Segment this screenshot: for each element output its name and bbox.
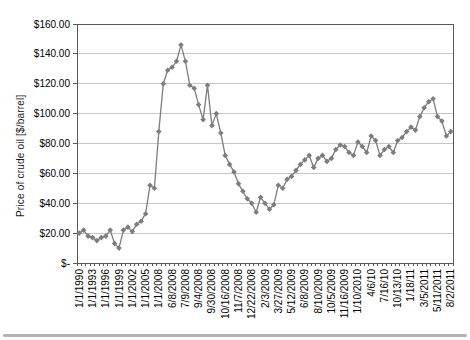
y-tick-label: $40.00 bbox=[39, 198, 70, 209]
x-tick-label: 11/16/2009 bbox=[339, 269, 350, 319]
y-tick-label: $140.00 bbox=[34, 48, 71, 59]
x-tick-label: 2/3/2009 bbox=[260, 269, 271, 308]
x-tick-label: 1/1/1999 bbox=[114, 269, 125, 308]
x-tick-label: 1/1/1996 bbox=[100, 269, 111, 308]
x-tick-label: 9/30/2008 bbox=[206, 269, 217, 314]
data-point-markers bbox=[76, 42, 453, 251]
x-tick-label: 8/2/2011 bbox=[445, 269, 456, 308]
y-tick-label: $100.00 bbox=[34, 108, 71, 119]
x-tick-label: 3/27/2009 bbox=[273, 269, 284, 314]
y-tick-label: $120.00 bbox=[34, 78, 71, 89]
x-tick-label: 10/5/2009 bbox=[326, 269, 337, 314]
x-tick-label: 10/13/10 bbox=[392, 269, 403, 308]
x-tick-label: 7/16/10 bbox=[379, 269, 390, 303]
x-tick-label: 1/10/2010 bbox=[352, 269, 363, 314]
y-tick-label: $- bbox=[61, 258, 70, 269]
plot-area: $-$20.00$40.00$60.00$80.00$100.00$120.00… bbox=[0, 0, 470, 340]
x-tick-label: 5/12/2009 bbox=[286, 269, 297, 314]
x-tick-label: 11/7/2008 bbox=[233, 269, 244, 313]
y-tick-label: $60.00 bbox=[39, 168, 70, 179]
y-tick-label: $160.00 bbox=[34, 19, 71, 30]
x-tick-label: 6/8/2008 bbox=[167, 269, 178, 308]
x-tick-label: 7/9/2008 bbox=[180, 269, 191, 308]
x-tick-label: 3/5/2011 bbox=[419, 269, 430, 308]
y-tick-label: $20.00 bbox=[39, 228, 70, 239]
x-tick-label: 1/1/2005 bbox=[140, 269, 151, 308]
bottom-divider-bar bbox=[3, 334, 467, 337]
x-tick-label: 6/8/2009 bbox=[299, 269, 310, 308]
x-tick-label: 1/1/1993 bbox=[87, 269, 98, 308]
x-tick-label: 4/6/10 bbox=[366, 269, 377, 297]
y-tick-label: $80.00 bbox=[39, 138, 70, 149]
x-tick-label: 10/16/2008 bbox=[220, 269, 231, 319]
x-tick-label: 9/4/2008 bbox=[193, 269, 204, 308]
x-tick-label: 1/1/2008 bbox=[153, 269, 164, 308]
x-tick-label: 1/1/1990 bbox=[74, 269, 85, 308]
x-tick-label: 1/1/2002 bbox=[127, 269, 138, 308]
x-tick-label: 12/22/2008 bbox=[246, 269, 257, 319]
oil-price-chart: Price of crude oil [$/barrel] $-$20.00$4… bbox=[0, 0, 470, 340]
x-tick-label: 5/11/2011 bbox=[432, 269, 443, 312]
price-series-line bbox=[79, 45, 451, 248]
x-tick-label: 1/18/11 bbox=[405, 269, 416, 302]
x-tick-label: 8/10/2009 bbox=[313, 269, 324, 314]
